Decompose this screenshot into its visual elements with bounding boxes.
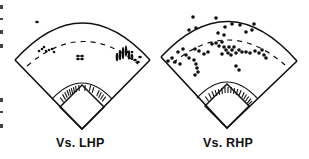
grounder-mark — [97, 90, 99, 95]
hit-marker — [197, 49, 201, 53]
hit-marker — [191, 15, 195, 19]
grounder-mark — [231, 87, 232, 93]
hit-marker — [248, 51, 252, 55]
hit-marker — [48, 49, 51, 52]
hit-marker — [187, 28, 191, 32]
hit-marker — [244, 50, 248, 54]
hit-marker — [214, 16, 218, 20]
hit-marker — [122, 47, 125, 60]
hit-marker — [176, 50, 180, 54]
hit-marker — [170, 56, 174, 60]
hit-marker — [230, 48, 234, 52]
hit-marker — [202, 52, 206, 56]
hit-marker — [237, 48, 241, 52]
hit-marker — [226, 51, 230, 55]
grounder-mark — [65, 92, 68, 97]
grounder-mark — [205, 97, 208, 102]
hit-marker — [38, 50, 41, 53]
grounder-mark — [243, 94, 246, 99]
hit-marker — [194, 26, 198, 30]
infield-diamond — [205, 84, 249, 128]
grounder-mark — [209, 93, 212, 98]
hit-marker — [262, 53, 266, 57]
hit-marker — [166, 59, 170, 63]
hit-marker — [240, 50, 244, 54]
hit-marker — [76, 55, 80, 58]
hit-marker — [220, 52, 224, 56]
hit-marker — [119, 50, 122, 61]
hit-marker — [223, 25, 227, 29]
hit-marker — [222, 45, 226, 49]
grounder-mark — [63, 94, 66, 99]
hit-marker — [234, 64, 238, 68]
hit-marker — [138, 56, 142, 59]
hit-marker — [43, 46, 46, 49]
grounder-mark — [102, 97, 106, 102]
hit-marker — [227, 45, 231, 49]
infield-diamond — [60, 85, 104, 129]
hit-marker — [116, 53, 119, 62]
hit-marker — [187, 56, 191, 60]
hit-marker — [194, 62, 198, 66]
hit-marker — [206, 50, 210, 54]
hit-marker — [237, 68, 241, 72]
foul-lines — [15, 60, 150, 129]
dashed-depth-arc — [27, 41, 138, 66]
grounder-mark — [92, 87, 94, 93]
hit-marker — [210, 42, 214, 46]
hit-marker — [214, 41, 218, 45]
grounder-mark — [212, 91, 214, 97]
hit-marker — [196, 70, 200, 74]
hit-marker — [257, 51, 261, 55]
hit-marker — [173, 60, 177, 64]
grounder-mark — [218, 89, 219, 95]
hit-marker — [195, 66, 199, 70]
spray-chart-figure — [0, 0, 309, 159]
hit-marker — [80, 55, 84, 58]
hit-marker — [252, 22, 256, 26]
grounder-mark — [242, 92, 245, 97]
grounder-mark — [69, 89, 71, 95]
grounder-mark — [100, 94, 103, 99]
hit-marker — [230, 22, 234, 26]
hit-marker — [184, 53, 188, 57]
hit-marker — [229, 53, 233, 57]
hit-marker — [253, 49, 257, 53]
hit-marker — [126, 51, 129, 54]
hit-marker — [181, 47, 185, 51]
hit-marker — [193, 73, 197, 77]
hit-marker — [238, 23, 242, 27]
grounder-mark — [67, 90, 69, 96]
hit-marker — [216, 31, 220, 35]
hit-marker — [232, 45, 236, 49]
hit-marker — [217, 44, 221, 48]
spray-chart-vs-lhp — [15, 21, 150, 129]
hit-marker — [264, 56, 268, 60]
outfield-fence — [161, 21, 297, 61]
hit-marker — [45, 50, 48, 53]
grounder-mark — [71, 88, 73, 94]
hit-marker — [136, 61, 140, 64]
grounder-mark — [245, 97, 248, 102]
hit-marker — [244, 30, 248, 34]
hit-marker — [76, 58, 80, 61]
hit-marker — [35, 21, 39, 24]
hit-marker — [133, 59, 137, 62]
hit-marker — [192, 58, 196, 62]
hit-marker — [80, 58, 84, 61]
grounder-mark — [233, 88, 234, 94]
hit-marker — [234, 51, 238, 55]
foul-lines — [161, 57, 297, 128]
hit-marker — [260, 48, 264, 52]
hit-marker — [220, 40, 224, 44]
grounder-mark — [60, 98, 63, 103]
grounder-mark — [99, 92, 102, 97]
hit-marker — [131, 51, 134, 54]
hit-marker — [41, 48, 44, 51]
grounder-mark — [89, 85, 90, 91]
grounder-mark — [73, 87, 74, 93]
hit-marker — [193, 47, 197, 51]
hit-marker — [53, 51, 56, 54]
caption-vs-lhp: Vs. LHP — [56, 136, 105, 150]
hit-marker — [131, 54, 134, 61]
